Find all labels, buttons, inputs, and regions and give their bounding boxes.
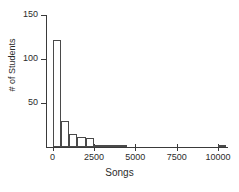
x-axis-tick-label: 5000 bbox=[125, 153, 145, 162]
y-axis-tick-label: 150 bbox=[23, 10, 38, 19]
x-axis-tick-label: 2500 bbox=[84, 153, 104, 162]
y-axis-label: # of Students bbox=[7, 5, 17, 125]
y-axis-tick-label: 50 bbox=[28, 98, 38, 107]
y-axis-tick-label: 100 bbox=[23, 54, 38, 63]
histogram-bar bbox=[77, 137, 85, 147]
x-axis-tick-label: 7500 bbox=[167, 153, 187, 162]
histogram-bar bbox=[69, 134, 77, 147]
x-axis-line bbox=[46, 147, 228, 148]
histogram-figure: 50100150 025005000750010000 # of Student… bbox=[0, 0, 239, 192]
x-axis-label: Songs bbox=[0, 167, 239, 178]
histogram-bar bbox=[86, 138, 94, 147]
histogram-bar bbox=[102, 145, 110, 147]
histogram-bar bbox=[119, 145, 127, 147]
histogram-bar bbox=[111, 145, 119, 147]
x-axis-tick-label: 10000 bbox=[206, 153, 231, 162]
histogram-bar bbox=[53, 40, 61, 147]
histogram-bar bbox=[218, 145, 226, 147]
x-axis-tick-label: 0 bbox=[50, 153, 55, 162]
histogram-bars bbox=[46, 15, 228, 147]
histogram-bar bbox=[61, 121, 69, 147]
histogram-bar bbox=[94, 145, 102, 147]
